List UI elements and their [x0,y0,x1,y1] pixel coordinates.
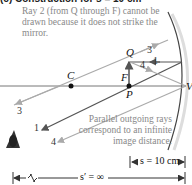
ray-label-4-right: 4 [140,59,145,70]
ray-label-4-left: 4 [51,136,56,147]
label-c: C [67,69,74,81]
label-f: F [121,71,128,83]
label-p: P [126,88,133,100]
center-point [69,84,74,89]
object-distance-label: s = 10 cm [140,155,179,166]
ray-label-1-left: 1 [34,122,39,133]
eye-icon [6,130,20,148]
label-v: V [186,80,192,92]
ray-label-3-left: 3 [17,105,22,116]
note-parallel-rays: Parallel outgoing rays correspond to an … [64,114,172,147]
image-distance-label: s′ = ∞ [80,171,104,182]
ray-label-3-right: 3 [147,44,152,55]
note-ray-2: Ray 2 (from Q through F) cannot be drawn… [22,6,162,39]
label-q: Q [126,46,134,58]
ray-label-1-right: 1 [153,55,158,66]
